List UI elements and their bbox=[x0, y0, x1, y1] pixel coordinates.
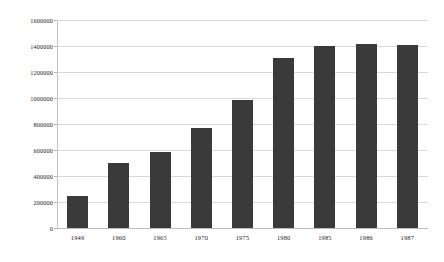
bar bbox=[314, 46, 335, 228]
bar bbox=[67, 196, 88, 229]
bar bbox=[356, 44, 377, 228]
x-tick-label: 1987 bbox=[401, 234, 415, 241]
y-tick-label: 0 bbox=[50, 225, 53, 232]
x-tick-label: 1986 bbox=[359, 234, 373, 241]
bar bbox=[108, 163, 129, 228]
y-tick-mark bbox=[54, 72, 57, 73]
gridline-1600000 bbox=[57, 20, 428, 21]
y-tick-label: 400000 bbox=[34, 173, 53, 180]
y-tick-mark bbox=[54, 46, 57, 47]
bar bbox=[397, 45, 418, 228]
y-tick-mark bbox=[54, 150, 57, 151]
y-tick-mark bbox=[54, 176, 57, 177]
bar bbox=[150, 152, 171, 228]
plot-area bbox=[57, 20, 428, 228]
x-tick-label: 1960 bbox=[112, 234, 126, 241]
x-tick-label: 1985 bbox=[318, 234, 332, 241]
bar bbox=[232, 100, 253, 228]
bar bbox=[273, 58, 294, 228]
bar bbox=[191, 128, 212, 228]
y-tick-label: 1400000 bbox=[30, 43, 53, 50]
y-tick-mark bbox=[54, 20, 57, 21]
y-tick-mark bbox=[54, 124, 57, 125]
y-tick-mark bbox=[54, 228, 57, 229]
gridline-0 bbox=[57, 228, 428, 229]
x-tick-label: 1949 bbox=[71, 234, 85, 241]
x-tick-label: 1980 bbox=[277, 234, 291, 241]
y-tick-label: 600000 bbox=[34, 147, 53, 154]
y-axis-tick-labels: 0200000400000600000800000100000012000001… bbox=[0, 20, 53, 228]
y-tick-label: 1000000 bbox=[30, 95, 53, 102]
x-tick-label: 1965 bbox=[153, 234, 167, 241]
y-tick-label: 1200000 bbox=[30, 69, 53, 76]
bar-chart: 0200000400000600000800000100000012000001… bbox=[0, 0, 444, 262]
y-tick-label: 1600000 bbox=[30, 17, 53, 24]
y-tick-label: 800000 bbox=[34, 121, 53, 128]
y-tick-label: 200000 bbox=[34, 199, 53, 206]
x-tick-label: 1975 bbox=[236, 234, 250, 241]
y-tick-mark bbox=[54, 202, 57, 203]
x-tick-label: 1970 bbox=[194, 234, 208, 241]
y-tick-mark bbox=[54, 98, 57, 99]
